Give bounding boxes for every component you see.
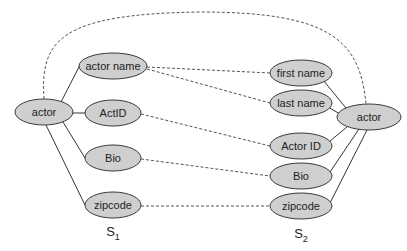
s1-edge-actor-actorname <box>61 65 80 102</box>
schema2-label: S2 <box>294 226 308 244</box>
node-s2-last-name[interactable]: last name <box>270 90 332 116</box>
node-s2-first-name[interactable]: first name <box>270 60 332 86</box>
match-edge-actorname-firstname <box>147 67 270 73</box>
node-s2-zipcode[interactable]: zipcode <box>270 193 332 219</box>
schema-matching-diagram: actor actor name ActID Bio zipcode first… <box>0 0 407 251</box>
node-s2-bio[interactable]: Bio <box>270 163 332 189</box>
s2-edge-actor-bio <box>330 129 359 172</box>
s1-edge-actor-zipcode <box>46 125 85 205</box>
schema1-label-sub: 1 <box>115 232 120 242</box>
node-s1-actor[interactable]: actor <box>15 99 73 125</box>
node-label: actor <box>357 111 382 123</box>
node-label: first name <box>277 67 325 79</box>
schema1-label-main: S <box>106 224 115 239</box>
node-label: actor name <box>85 60 140 72</box>
schema2-label-main: S <box>294 226 303 241</box>
node-s1-zipcode[interactable]: zipcode <box>85 192 141 218</box>
node-s1-actid[interactable]: ActID <box>85 100 141 126</box>
schema1-label: S1 <box>106 224 120 242</box>
node-label: Bio <box>293 170 309 182</box>
node-label: ActID <box>100 107 127 119</box>
node-label: zipcode <box>94 199 132 211</box>
node-label: Bio <box>105 152 121 164</box>
s2-edge-actor-zipcode <box>330 130 367 203</box>
s2-edge-actor-actorid <box>330 127 347 141</box>
match-edge-actid-actorid <box>141 114 270 146</box>
node-s2-actor[interactable]: actor <box>337 104 401 130</box>
schema2-nodes: first name last name actor Actor ID Bio … <box>270 60 401 219</box>
schema1-nodes: actor actor name ActID Bio zipcode <box>15 53 147 218</box>
node-s2-actor-id[interactable]: Actor ID <box>270 133 332 159</box>
schema1-edges <box>46 65 85 205</box>
match-edge-actorname-lastname <box>147 69 270 103</box>
node-label: zipcode <box>282 200 320 212</box>
match-edge-bio-bio <box>141 159 270 176</box>
schema2-label-sub: 2 <box>303 234 308 244</box>
node-s1-actor-name[interactable]: actor name <box>79 53 147 79</box>
node-label: Actor ID <box>281 140 321 152</box>
node-label: last name <box>277 97 325 109</box>
node-s1-bio[interactable]: Bio <box>85 145 141 171</box>
s1-edge-actor-bio <box>63 122 85 158</box>
node-label: actor <box>32 106 57 118</box>
